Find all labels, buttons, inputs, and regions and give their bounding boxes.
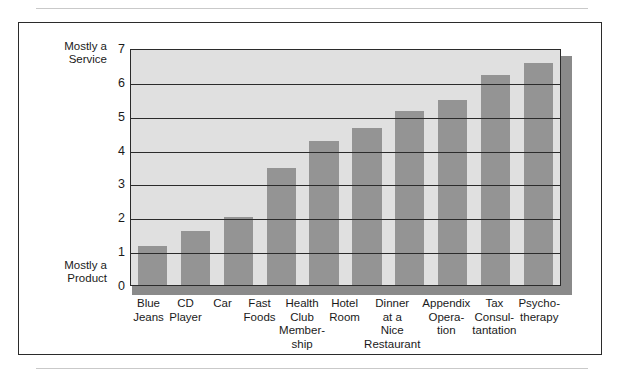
plot-shadow-bottom [132, 286, 572, 295]
x-axis-label: Appendix Opera- tion [421, 297, 471, 351]
bar[interactable] [438, 100, 467, 285]
bar[interactable] [181, 231, 210, 285]
gridline [131, 118, 560, 119]
plot-area [130, 49, 561, 286]
bar-slot [474, 50, 517, 285]
gridline [131, 219, 560, 220]
bar[interactable] [395, 111, 424, 285]
y-tick-label: 2 [118, 212, 125, 224]
x-axis-label: Health Club Member- ship [278, 297, 326, 351]
x-axis-label: Hotel Room [326, 297, 363, 351]
bar-slot [174, 50, 217, 285]
bar[interactable] [309, 141, 338, 285]
page-rule-bottom [36, 368, 588, 369]
y-tick-label: 1 [118, 246, 125, 258]
y-tick-label: 0 [118, 280, 125, 292]
gridline [131, 185, 560, 186]
bar-slot [517, 50, 560, 285]
plot-shadow-right [561, 56, 572, 294]
gridline [131, 253, 560, 254]
x-axis-label: CD Player [167, 297, 204, 351]
bar[interactable] [524, 63, 553, 285]
bar-slot [217, 50, 260, 285]
bar-slot [260, 50, 303, 285]
bar-chart: Mostly a Service Mostly a Product 012345… [19, 23, 603, 356]
x-axis-label: Fast Foods [241, 297, 278, 351]
y-tick-label: 4 [118, 145, 125, 157]
gridline [131, 152, 560, 153]
x-axis-label: Tax Consul- tantation [471, 297, 517, 351]
bar-slot [431, 50, 474, 285]
page-rule-top [36, 8, 588, 9]
x-axis-label: Psycho- therapy [517, 297, 561, 351]
gridline [131, 84, 560, 85]
x-axis-label: Blue Jeans [130, 297, 167, 351]
x-axis-label: Car [204, 297, 241, 351]
bar-slot [303, 50, 346, 285]
x-axis-labels: Blue JeansCD PlayerCarFast FoodsHealth C… [130, 297, 561, 351]
bar[interactable] [138, 246, 167, 285]
y-tick-label: 7 [118, 43, 125, 55]
y-axis-ticks: 01234567 [109, 23, 125, 356]
axis-annotation-bottom: Mostly a Product [29, 259, 107, 285]
axis-annotation-top: Mostly a Service [29, 40, 107, 66]
bar[interactable] [224, 217, 253, 285]
figure-frame: Mostly a Service Mostly a Product 012345… [18, 22, 602, 355]
y-tick-label: 3 [118, 178, 125, 190]
bar-slot [131, 50, 174, 285]
bar-slot [388, 50, 431, 285]
x-axis-label: Dinner at a Nice Restaurant [363, 297, 421, 351]
y-tick-label: 5 [118, 111, 125, 123]
bar-slot [346, 50, 389, 285]
y-tick-label: 6 [118, 77, 125, 89]
bar-series [131, 50, 560, 285]
